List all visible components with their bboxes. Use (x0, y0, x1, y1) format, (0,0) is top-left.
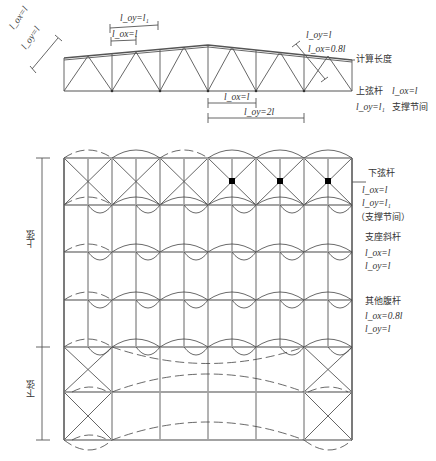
legend-other-web-title: 其他腹杆 (365, 297, 401, 306)
truss-diagram (0, 0, 436, 461)
legend-bottom-chord-title: 下弦杆 (368, 169, 395, 178)
label-lower-chord: 下弦 (26, 380, 35, 398)
top-chord-loy: l_oy=l₁ (356, 102, 385, 112)
label-upper-chord: 上弦 (26, 230, 35, 248)
plan-view (36, 150, 366, 450)
top-chord-title: 上弦杆 (356, 86, 383, 96)
legend-support-diagonal-lox: l_ox=l (365, 249, 390, 259)
legend-bottom-chord-lox: l_ox=l (362, 186, 387, 196)
top-chord-loy-row: l_oy=l₁ 支撑节间 (356, 102, 428, 113)
top-chord-spec: 上弦杆 l_ox=l (356, 86, 417, 97)
top-chord-lox: l_ox=l (392, 86, 417, 96)
legend-other-web-loy: l_oy=l (365, 325, 390, 335)
label-bottom-lox: l_ox=l (224, 93, 249, 103)
label-calc-length: 计算长度 (356, 55, 392, 64)
legend-support-diagonal-title: 支座斜杆 (365, 233, 401, 242)
legend-other-web-lox: l_ox=0.8l (365, 312, 402, 322)
legend-support-diagonal-loy: l_oy=l (365, 262, 390, 272)
label-bottom-loy: l_oy=2l (244, 108, 274, 118)
label-diag-lox: l_ox=0.8l (308, 45, 345, 55)
label-top-loy: l_oy=l₁ (120, 14, 149, 24)
legend-bottom-chord-loy: l_oy=l₁ (362, 199, 391, 209)
legend-bottom-chord-note: （支撑节间） (356, 213, 410, 222)
top-chord-note: 支撑节间 (392, 102, 428, 112)
label-top-lox: l_ox=l (112, 30, 137, 40)
label-diag-loy: l_oy=l (306, 31, 331, 41)
